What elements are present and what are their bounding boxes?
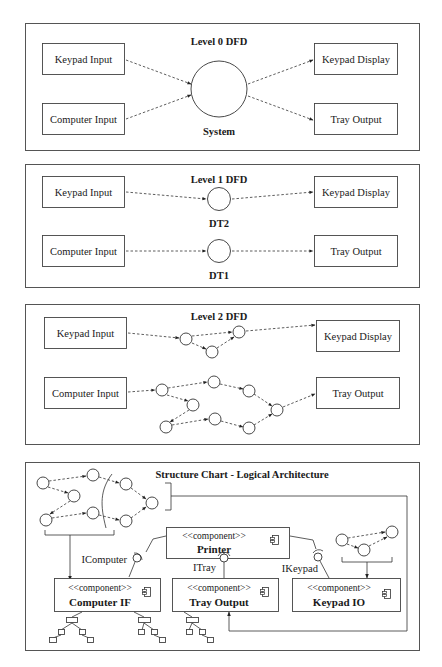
level0-keypad-input: Keypad Input — [43, 44, 125, 75]
svg-text:Keypad Input: Keypad Input — [55, 187, 113, 198]
svg-text:Tray Output: Tray Output — [332, 388, 383, 399]
svg-text:Keypad IO: Keypad IO — [313, 596, 366, 608]
svg-text:Computer IF: Computer IF — [69, 596, 131, 608]
module-tree-computer-if-1 — [50, 612, 94, 643]
svg-text:<<component>>: <<component>> — [187, 583, 251, 593]
component-printer: <<component>> Printer — [167, 528, 290, 559]
component-tray-output: <<component>> Tray Output — [173, 579, 279, 612]
component-keypad-io: <<component>> Keypad IO — [293, 579, 401, 612]
level2-panel: Level 2 DFD Keypad Input Computer Input … — [26, 305, 420, 445]
level1-panel: Level 1 DFD Keypad Input Computer Input … — [26, 165, 420, 288]
svg-text:<<component>>: <<component>> — [68, 583, 132, 593]
level0-title: Level 0 DFD — [191, 36, 248, 47]
svg-text:Keypad Display: Keypad Display — [324, 331, 393, 342]
module-tree-tray-output — [184, 612, 214, 643]
level1-title: Level 1 DFD — [191, 174, 248, 185]
svg-text:Keypad Display: Keypad Display — [322, 54, 391, 65]
level2-keypad-display: Keypad Display — [317, 321, 400, 352]
structure-dfd-fragment-right — [336, 526, 398, 578]
level1-computer-input: Computer Input — [43, 236, 125, 267]
svg-text:IKeypad: IKeypad — [282, 563, 319, 574]
svg-text:Keypad Input: Keypad Input — [55, 54, 113, 65]
level0-computer-input: Computer Input — [43, 104, 125, 135]
svg-text:IComputer: IComputer — [82, 554, 128, 565]
level2-keypad-input: Keypad Input — [45, 318, 127, 349]
structure-panel: Structure Chart - Logical Architecture — [26, 463, 420, 651]
level1-keypad-display: Keypad Display — [315, 177, 398, 208]
svg-text:Tray Output: Tray Output — [189, 596, 249, 608]
svg-text:Printer: Printer — [197, 543, 231, 555]
level1-dt2-label: DT2 — [209, 218, 229, 229]
level2-keypad-process-chain — [128, 325, 315, 358]
dfd-diagram: Level 0 DFD Keypad Input Computer Input … — [0, 0, 442, 667]
svg-text:Computer Input: Computer Input — [50, 246, 117, 257]
level0-process-label: System — [203, 126, 235, 137]
svg-text:Tray Output: Tray Output — [330, 246, 381, 257]
svg-text:Keypad Display: Keypad Display — [322, 187, 391, 198]
svg-text:<<component>>: <<component>> — [182, 531, 246, 541]
level0-tray-output: Tray Output — [315, 104, 398, 135]
level2-computer-input: Computer Input — [45, 378, 127, 409]
level2-tray-output: Tray Output — [317, 378, 400, 409]
level0-panel: Level 0 DFD Keypad Input Computer Input … — [26, 24, 420, 151]
svg-text:Computer Input: Computer Input — [50, 114, 117, 125]
level0-keypad-display: Keypad Display — [315, 44, 398, 75]
svg-text:Keypad Input: Keypad Input — [57, 328, 115, 339]
level1-keypad-input: Keypad Input — [43, 177, 125, 208]
level1-dt1-label: DT1 — [209, 270, 229, 281]
level1-tray-output: Tray Output — [315, 236, 398, 267]
svg-text:ITray: ITray — [193, 562, 217, 573]
level2-computer-process-chain — [128, 376, 315, 434]
level1-dt2-process — [208, 188, 231, 211]
level0-system-process — [191, 61, 247, 117]
svg-text:Computer Input: Computer Input — [52, 388, 119, 399]
structure-title: Structure Chart - Logical Architecture — [155, 469, 329, 480]
module-tree-computer-if-2 — [134, 612, 166, 643]
level2-title: Level 2 DFD — [191, 311, 248, 322]
interface-icomputer: IComputer — [82, 536, 167, 577]
component-computer-if: <<component>> Computer IF — [55, 579, 161, 612]
level1-dt1-process — [208, 240, 231, 263]
svg-text:Tray Output: Tray Output — [330, 114, 381, 125]
svg-text:<<component>>: <<component>> — [307, 583, 371, 593]
